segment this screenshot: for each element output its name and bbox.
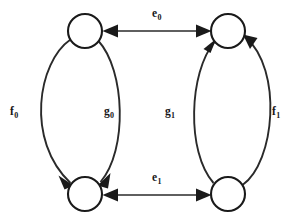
edge-label-g1-base: g: [165, 105, 171, 117]
node-bottom-left[interactable]: [68, 177, 102, 211]
edge-label-g1-subscript: 1: [171, 111, 175, 120]
edge-g1: [194, 39, 216, 184]
node-bottom-right[interactable]: [211, 177, 245, 211]
edge-f1-path: [243, 37, 271, 185]
edge-label-g0-base: g: [104, 105, 110, 117]
edge-label-g0: g0: [104, 106, 114, 120]
edge-label-g0-subscript: 0: [110, 111, 114, 120]
node-top-right[interactable]: [211, 14, 245, 48]
edge-label-g1: g1: [165, 106, 175, 120]
edge-e0: [103, 25, 212, 38]
edge-label-f1: f1: [272, 106, 280, 120]
edge-label-f0: f0: [10, 106, 18, 120]
edge-label-e1-subscript: 1: [157, 177, 161, 186]
edge-e1: [103, 189, 212, 202]
edge-e0-arrowhead-right: [196, 25, 212, 38]
edge-g1-path: [194, 42, 214, 183]
edge-e1-arrowhead-right: [196, 189, 212, 202]
edge-f1: [243, 35, 271, 186]
edge-label-e1: e1: [152, 172, 161, 186]
edge-e1-arrowhead-left: [103, 189, 119, 202]
diagram-canvas: e0 e1 f0 g0 g1 f1: [0, 0, 304, 224]
edge-label-f0-subscript: 0: [14, 111, 18, 120]
edge-label-e0-subscript: 0: [157, 13, 161, 22]
edge-f0-path: [41, 40, 70, 184]
edge-e0-arrowhead-left: [103, 25, 119, 38]
edge-f0: [41, 40, 73, 190]
edge-label-f1-subscript: 1: [276, 111, 280, 120]
diagram-graphics: [0, 0, 304, 224]
node-top-left[interactable]: [68, 14, 102, 48]
edge-label-e0: e0: [152, 8, 161, 22]
